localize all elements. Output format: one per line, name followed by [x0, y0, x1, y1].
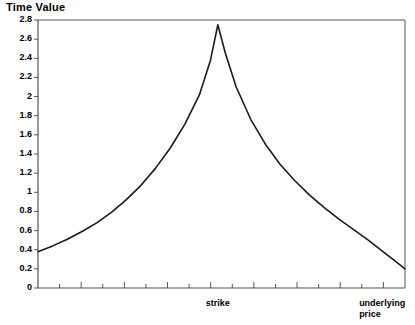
time-value-chart: Time Value 00.20.40.60.811.21.41.61.822.…	[0, 0, 415, 325]
x-axis-label-strike: strike	[206, 298, 230, 309]
time-value-curve	[38, 25, 405, 269]
x-axis-label-underlying-price: underlyingprice	[359, 298, 405, 320]
x-axis-label-line: underlying	[359, 298, 405, 309]
axis-frame	[38, 20, 405, 288]
plot-area	[0, 0, 415, 325]
x-axis-label-line: price	[359, 309, 405, 320]
x-axis-ticks	[60, 282, 384, 288]
